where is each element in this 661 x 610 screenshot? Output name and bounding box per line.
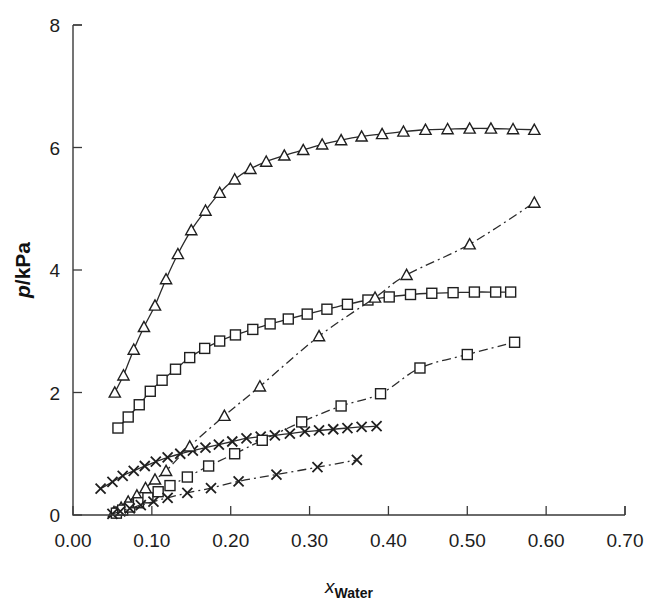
data-point-triangle-marker <box>149 300 160 310</box>
x-axis-tick-label: 0.60 <box>528 530 565 551</box>
data-point-triangle-marker <box>128 344 139 354</box>
data-point-square-marker <box>113 423 123 433</box>
series-square-solid <box>113 287 516 433</box>
data-point-square-marker <box>145 386 155 396</box>
data-point-square-marker <box>230 449 240 459</box>
y-axis-tick-label: 6 <box>49 138 60 159</box>
data-point-x-marker <box>163 452 173 462</box>
data-point-x-marker <box>163 493 173 503</box>
data-point-square-marker <box>376 389 386 399</box>
y-axis-title: p/kPa <box>11 242 34 299</box>
data-point-triangle-marker <box>313 331 324 341</box>
chart-svg: 024680.000.100.200.300.400.500.600.70p/k… <box>0 0 661 610</box>
x-axis-tick-label: 0.40 <box>370 530 407 551</box>
axes-layer <box>73 25 625 515</box>
series-layer <box>96 123 540 519</box>
data-point-x-marker <box>107 477 117 487</box>
data-point-x-marker <box>140 461 150 471</box>
x-axis-tick-label: 0.20 <box>212 530 249 551</box>
data-point-square-marker <box>491 287 501 297</box>
data-point-square-marker <box>427 288 437 298</box>
data-point-x-marker <box>227 437 237 447</box>
data-point-square-marker <box>230 330 240 340</box>
data-point-x-marker <box>200 443 210 453</box>
data-point-triangle-marker <box>149 474 160 484</box>
data-point-square-marker <box>469 287 479 297</box>
data-point-x-marker <box>129 466 139 476</box>
data-point-triangle-marker <box>118 370 129 380</box>
data-point-x-marker <box>206 483 216 493</box>
y-axis-tick-label: 4 <box>49 260 60 281</box>
series-triangle-dashdot <box>108 197 540 517</box>
data-point-square-marker <box>510 337 520 347</box>
data-point-x-marker <box>182 488 192 498</box>
data-point-triangle-marker <box>186 225 197 235</box>
data-point-square-marker <box>182 472 192 482</box>
x-axis-tick-label: 0.50 <box>449 530 486 551</box>
data-point-triangle-marker <box>279 150 290 160</box>
data-point-square-marker <box>448 288 458 298</box>
x-axis-tick-label: 0.00 <box>55 530 92 551</box>
data-point-square-marker <box>283 314 293 324</box>
data-point-triangle-marker <box>245 163 256 173</box>
data-point-triangle-marker <box>109 387 120 397</box>
data-point-square-marker <box>248 324 258 334</box>
series-line-square-solid <box>118 292 511 428</box>
data-point-square-marker <box>265 319 275 329</box>
x-axis-title: xWater <box>324 576 373 601</box>
data-point-square-marker <box>342 299 352 309</box>
data-point-triangle-marker <box>160 465 171 475</box>
data-point-square-marker <box>462 350 472 360</box>
data-point-triangle-marker <box>261 156 272 166</box>
data-point-x-marker <box>96 484 106 494</box>
data-point-square-marker <box>215 336 225 346</box>
data-point-square-marker <box>257 435 267 445</box>
data-point-triangle-marker <box>138 321 149 331</box>
data-point-square-marker <box>134 400 144 410</box>
data-point-square-marker <box>153 487 163 497</box>
y-axis-tick-label: 2 <box>49 383 60 404</box>
data-point-square-marker <box>157 375 167 385</box>
chart-figure: 024680.000.100.200.300.400.500.600.70p/k… <box>0 0 661 610</box>
axis-spines <box>73 25 625 515</box>
y-axis-tick-label: 8 <box>49 15 60 36</box>
data-point-triangle-marker <box>529 197 540 207</box>
y-axis-tick-label: 0 <box>49 505 60 526</box>
data-point-square-marker <box>200 343 210 353</box>
data-point-x-marker <box>234 476 244 486</box>
data-point-triangle-marker <box>464 239 475 249</box>
data-point-square-marker <box>185 353 195 363</box>
x-axis-tick-label: 0.70 <box>607 530 644 551</box>
data-point-triangle-marker <box>200 205 211 215</box>
data-point-x-marker <box>118 471 128 481</box>
data-point-square-marker <box>204 461 214 471</box>
data-point-square-marker <box>384 292 394 302</box>
data-point-triangle-marker <box>172 248 183 258</box>
data-point-square-marker <box>165 481 175 491</box>
data-point-square-marker <box>302 309 312 319</box>
data-point-square-marker <box>297 417 307 427</box>
data-point-square-marker <box>336 401 346 411</box>
series-triangle-solid <box>109 123 540 397</box>
data-point-triangle-marker <box>401 269 412 279</box>
data-point-square-marker <box>415 363 425 373</box>
data-point-square-marker <box>171 364 181 374</box>
x-axis-tick-label: 0.30 <box>291 530 328 551</box>
data-point-triangle-marker <box>229 174 240 184</box>
data-point-square-marker <box>506 287 516 297</box>
data-point-square-marker <box>123 412 133 422</box>
x-axis-tick-label: 0.10 <box>133 530 170 551</box>
data-point-square-marker <box>406 290 416 300</box>
data-point-x-marker <box>151 457 161 467</box>
data-point-x-marker <box>214 440 224 450</box>
data-point-triangle-marker <box>184 441 195 451</box>
data-point-triangle-marker <box>160 274 171 284</box>
data-point-square-marker <box>322 304 332 314</box>
